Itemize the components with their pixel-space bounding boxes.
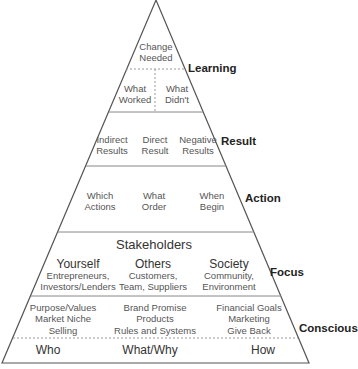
direct-result-text: Direct Result [142, 134, 169, 157]
how-footer: How [251, 343, 275, 357]
conscious-label: Conscious [299, 322, 358, 334]
who-items-text: Purpose/Values Market Niche Selling [30, 302, 96, 336]
who-footer: Who [36, 343, 61, 357]
whatwhy-footer: What/Why [122, 343, 177, 357]
result-label: Result [221, 135, 256, 147]
how-items-text: Financial Goals Marketing Give Back [216, 302, 281, 336]
negative-results-text: Negative Results [179, 134, 217, 157]
which-actions-text: Which Actions [84, 190, 115, 213]
what-worked-text: What Worked [119, 83, 152, 106]
what-didnt-text: What Didn't [165, 83, 189, 106]
what-order-text: What Order [142, 190, 166, 213]
others-sub: Customers, Team, Suppliers [119, 270, 187, 293]
change-needed-text: Change Needed [139, 41, 172, 64]
indirect-results-text: Indirect Results [96, 134, 128, 157]
focus-label: Focus [270, 266, 304, 278]
whatwhy-items-text: Brand Promise Products Rules and Systems [114, 302, 196, 336]
yourself-sub: Entrepreneurs, Investors/Lenders [40, 270, 116, 293]
action-label: Action [245, 192, 281, 204]
when-begin-text: When Begin [200, 190, 225, 213]
stakeholders-heading: Stakeholders [116, 237, 192, 253]
society-sub: Community, Environment [202, 270, 255, 293]
learning-label: Learning [188, 62, 237, 74]
